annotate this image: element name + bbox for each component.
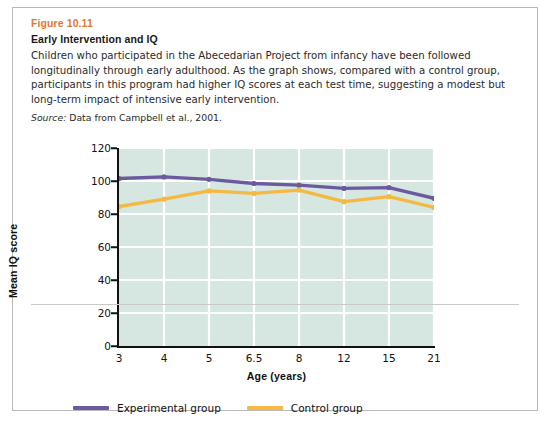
data-point [251, 181, 256, 186]
figure-number: Figure 10.11 [31, 17, 93, 29]
data-point [206, 188, 211, 193]
y-tick-label: 100 [77, 175, 111, 187]
x-tick-label: 3 [99, 352, 139, 364]
x-tick-label: 6.5 [234, 352, 274, 364]
x-tick-label: 12 [324, 352, 364, 364]
x-tick-label: 15 [369, 352, 409, 364]
y-axis-ticks: 020406080100120 [77, 130, 111, 410]
y-tick-mark [111, 180, 117, 182]
plot-area [119, 148, 434, 346]
data-point [206, 177, 211, 182]
legend-divider [31, 304, 519, 305]
y-tick-mark [111, 312, 117, 314]
source-label: Source: [31, 112, 66, 123]
x-tick-label: 8 [279, 352, 319, 364]
data-point [161, 174, 166, 179]
x-axis-label: Age (years) [119, 370, 434, 382]
legend-swatch [247, 406, 283, 410]
legend-label: Control group [291, 402, 363, 414]
data-point [296, 183, 301, 188]
legend-swatch [73, 406, 109, 410]
y-tick-label: 0 [77, 340, 111, 352]
y-tick-mark [111, 213, 117, 215]
y-tick-mark [111, 279, 117, 281]
x-axis-ticks: 3456.58121521 [119, 352, 434, 368]
y-tick-mark [111, 345, 117, 347]
legend-item[interactable]: Control group [247, 402, 363, 414]
figure-title: Early Intervention and IQ [31, 33, 158, 45]
y-tick-label: 80 [77, 208, 111, 220]
figure-caption: Children who participated in the Abeceda… [31, 49, 517, 107]
data-point [341, 186, 346, 191]
chart: Mean IQ score 020406080100120 3456.58121… [13, 130, 539, 410]
x-axis-line [117, 346, 435, 348]
data-point [251, 191, 256, 196]
plot-svg [119, 148, 434, 346]
x-tick-label: 4 [144, 352, 184, 364]
source-text: Data from Campbell et al., 2001. [69, 112, 222, 123]
legend-item[interactable]: Experimental group [73, 402, 221, 414]
y-tick-label: 40 [77, 274, 111, 286]
data-point [386, 185, 391, 190]
y-axis-line [117, 148, 119, 347]
x-tick-label: 21 [414, 352, 454, 364]
y-tick-label: 60 [77, 241, 111, 253]
figure-card: Figure 10.11 Early Intervention and IQ C… [12, 7, 538, 411]
y-tick-label: 120 [77, 142, 111, 154]
y-tick-mark [111, 147, 117, 149]
y-tick-label: 20 [77, 307, 111, 319]
data-point [296, 187, 301, 192]
x-tick-label: 5 [189, 352, 229, 364]
chart-legend: Experimental groupControl group [73, 398, 493, 418]
data-point [161, 197, 166, 202]
y-tick-mark [111, 246, 117, 248]
data-point [386, 194, 391, 199]
figure-source: Source: Data from Campbell et al., 2001. [31, 112, 517, 123]
data-point [341, 199, 346, 204]
legend-label: Experimental group [117, 402, 221, 414]
y-axis-label: Mean IQ score [7, 224, 19, 298]
